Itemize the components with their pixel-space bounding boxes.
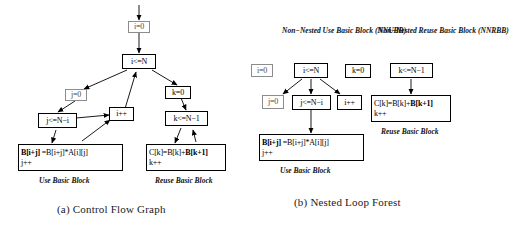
nlf-node-i-cond[interactable]: i<=N [294, 63, 328, 78]
nlf-caption: (b) Nested Loop Forest [294, 196, 401, 208]
use-block-rhs: =B[i+j]*A[i][j] [40, 148, 88, 157]
cfg-node-use-block[interactable]: B[i+j] =B[i+j]*A[i][j] j++ [18, 144, 123, 171]
node-text: k=0 [352, 66, 364, 76]
node-text: k=0 [172, 88, 184, 98]
node-text: i++ [116, 109, 127, 119]
nnubb-line-1: Non−Nested Use [282, 26, 334, 35]
use-block-line-1: B[i+j] =B[i+j]*A[i][j] [21, 148, 120, 158]
cfg-node-i-cond[interactable]: i<=N [122, 54, 156, 69]
reuse-block-line-2: k++ [374, 109, 448, 119]
node-text: j<=N−i [300, 98, 323, 108]
cfg-node-k-cond[interactable]: k<=N−1 [165, 111, 208, 126]
nlf-reuse-block-label: Reuse Basic Block [381, 127, 439, 136]
cfg-node-j-cond[interactable]: j<=N−i [38, 113, 77, 128]
nnrbb-line-1: Non−Nested Reuse [378, 26, 437, 35]
cfg-node-reuse-block[interactable]: C[k]=B[k]+B[k+1] k++ [146, 144, 226, 171]
reuse-block-line-1: C[k]=B[k]+B[k+1] [149, 148, 223, 158]
node-text: k<=N−1 [398, 66, 424, 76]
node-text: j=0 [268, 97, 278, 107]
use-block-lhs: B[i+j] [21, 148, 40, 157]
nlf-node-reuse-block[interactable]: C[k]=B[k]+B[k+1] k++ [371, 95, 451, 122]
nnubb-line-2: Basic Block [336, 26, 373, 35]
cfg-caption: (a) Control Flow Graph [57, 203, 166, 215]
nlf-node-j-cond[interactable]: j<=N−i [292, 95, 331, 110]
reuse-block-line-2: k++ [149, 158, 223, 168]
node-text: j<=N−i [46, 116, 69, 126]
nlf-node-i-inc[interactable]: i++ [337, 95, 362, 110]
use-block-lhs: B[i+j] [262, 138, 281, 147]
cfg-use-block-label: Use Basic Block [39, 176, 89, 185]
cfg-reuse-block-label: Reuse Basic Block [155, 176, 213, 185]
cfg-node-k-init[interactable]: k=0 [165, 86, 191, 99]
reuse-block-rhs: B[k+1] [410, 99, 432, 108]
reuse-block-lhs: C[k]=B[k]+ [374, 99, 410, 108]
nlf-use-block-label: Use Basic Block [280, 166, 330, 175]
cfg-node-i-inc[interactable]: i++ [109, 107, 134, 121]
node-text: i=0 [134, 22, 144, 32]
node-text: i<=N [303, 66, 319, 76]
use-block-rhs: =B[i+j]*A[i][j] [281, 138, 329, 147]
reuse-block-rhs: B[k+1] [185, 148, 207, 157]
nlf-node-j-init[interactable]: j=0 [262, 95, 284, 109]
node-text: i++ [344, 98, 355, 108]
use-block-line-2: j++ [262, 148, 361, 158]
node-text: i<=N [131, 57, 147, 67]
nlf-node-i-init[interactable]: i=0 [251, 64, 273, 77]
reuse-block-line-1: C[k]=B[k]+B[k+1] [374, 99, 448, 109]
nnrbb-line-3: (NNRBB) [478, 26, 509, 35]
use-block-line-1: B[i+j] =B[i+j]*A[i][j] [262, 138, 361, 148]
nnrbb-header: Non−Nested Reuse Basic Block (NNRBB) [378, 26, 509, 36]
node-text: k<=N−1 [173, 114, 199, 124]
nnrbb-line-2: Basic Block [439, 26, 476, 35]
node-text: j=0 [71, 90, 81, 100]
use-block-line-2: j++ [21, 158, 120, 168]
cfg-node-i-init[interactable]: i=0 [128, 21, 150, 33]
nlf-node-use-block[interactable]: B[i+j] =B[i+j]*A[i][j] j++ [259, 134, 364, 161]
reuse-block-lhs: C[k]=B[k]+ [149, 148, 185, 157]
cfg-node-j-init[interactable]: j=0 [65, 89, 87, 101]
nlf-node-k-init[interactable]: k=0 [345, 64, 371, 78]
nlf-node-k-cond[interactable]: k<=N−1 [390, 63, 433, 78]
node-text: i=0 [257, 66, 267, 76]
